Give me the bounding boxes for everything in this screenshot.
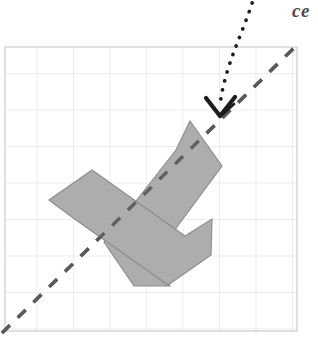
figure-canvas: [0, 0, 318, 340]
annotation-caption: ce: [292, 1, 310, 20]
reflection-figure: ce: [0, 0, 318, 340]
